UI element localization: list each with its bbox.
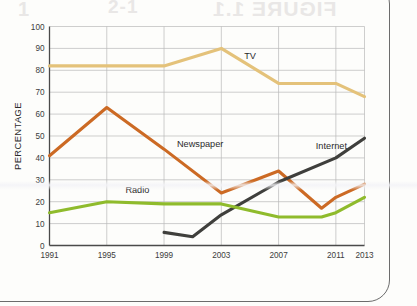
series-label-radio: Radio xyxy=(125,185,149,195)
x-axis-tick-label: 1999 xyxy=(155,251,174,260)
series-label-tv: TV xyxy=(244,51,257,61)
line-chart: 0102030405060708090100199119951999200320… xyxy=(0,0,417,306)
x-axis-tick-label: 2013 xyxy=(355,251,374,260)
series-labels: TVNewspaperInternetRadio xyxy=(125,51,347,195)
grid-lines xyxy=(50,27,365,246)
x-axis-tick-label: 1995 xyxy=(98,251,117,260)
y-axis-tick-label: 20 xyxy=(35,198,45,207)
x-axis-tick-label: 1991 xyxy=(40,251,59,260)
x-axis-tick-label: 2007 xyxy=(269,251,288,260)
chart-canvas: 0102030405060708090100199119951999200320… xyxy=(0,0,417,306)
y-axis-tick-label: 10 xyxy=(35,220,45,229)
y-axis-tick-label: 70 xyxy=(35,88,45,97)
series-label-newspaper: Newspaper xyxy=(177,139,223,149)
series-line-tv xyxy=(50,48,365,96)
axis-titles: PERCENTAGE xyxy=(12,102,23,170)
y-axis-tick-label: 40 xyxy=(35,154,45,163)
y-axis-tick-label: 90 xyxy=(35,44,45,53)
y-axis-tick-label: 30 xyxy=(35,176,45,185)
y-axis-title: PERCENTAGE xyxy=(12,102,23,170)
series-label-internet: Internet xyxy=(316,141,348,151)
y-axis-tick-label: 50 xyxy=(35,132,45,141)
x-axis-tick-label: 2003 xyxy=(212,251,231,260)
y-axis-tick-label: 80 xyxy=(35,66,45,75)
y-axis-tick-label: 60 xyxy=(35,110,45,119)
series-line-radio xyxy=(50,197,365,217)
y-axis-tick-label: 100 xyxy=(31,23,45,32)
scanned-page-surface: 1 2-1 FIGURE 1.1 01020304050607080901001… xyxy=(0,0,417,306)
y-axis-tick-label: 0 xyxy=(40,242,45,251)
series-line-internet xyxy=(164,138,364,237)
x-axis-tick-label: 2011 xyxy=(327,251,345,260)
